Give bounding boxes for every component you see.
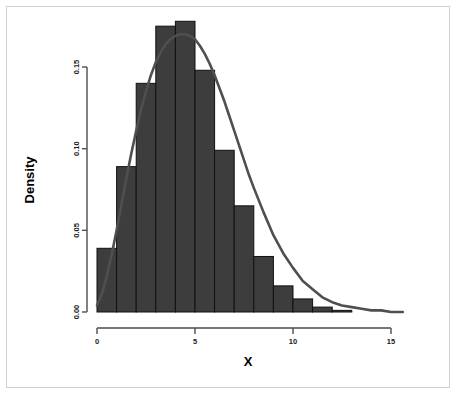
histogram-bar (273, 286, 293, 312)
y-axis-tick-label: 0.05 (72, 223, 81, 238)
histogram-bar (234, 206, 254, 312)
histogram-bars (97, 21, 352, 312)
y-axis-title: Density (22, 156, 37, 204)
y-axis-tick-label: 0.10 (72, 141, 81, 156)
x-axis-title: X (244, 354, 253, 369)
x-axis-tick-label: 15 (387, 337, 395, 346)
histogram-bar (195, 70, 215, 312)
histogram-figure: 0.000.050.100.15 051015 X Density (0, 0, 458, 395)
histogram-bar (293, 299, 313, 312)
histogram-bar (254, 256, 274, 312)
y-axis-tick-label: 0.15 (72, 60, 81, 75)
histogram-bar (117, 167, 137, 312)
density-histogram-plot: 0.000.050.100.15 051015 X Density (0, 0, 458, 395)
histogram-bar (332, 310, 352, 312)
histogram-bar (215, 150, 235, 312)
x-axis: 051015 (95, 328, 395, 346)
y-axis: 0.000.050.100.15 (72, 60, 87, 320)
y-axis-tick-label: 0.00 (72, 305, 81, 320)
x-axis-tick-label: 5 (193, 337, 197, 346)
histogram-bar (156, 26, 176, 312)
x-axis-tick-label: 0 (95, 337, 99, 346)
histogram-bar (313, 307, 333, 312)
histogram-bar (175, 21, 195, 312)
x-axis-tick-label: 10 (289, 337, 297, 346)
